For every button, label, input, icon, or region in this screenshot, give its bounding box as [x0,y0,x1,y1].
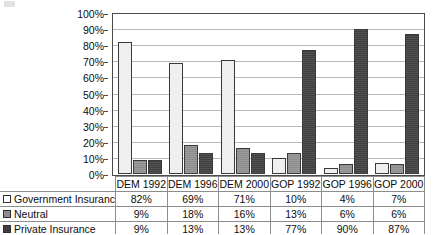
bar-group [114,15,166,174]
bar [287,153,301,174]
y-axis-tick-label: 100% [77,9,104,19]
bar-group [217,15,269,174]
bar [184,145,198,174]
bar [354,29,368,174]
y-axis-tick-mark [104,127,108,128]
y-axis-tick-mark [104,95,108,96]
bar [251,153,265,174]
y-axis-tick-label: 70% [83,57,104,67]
table-column-header: GOP 2000 [373,177,425,192]
legend-label: Neutral [14,208,48,220]
table-cell: 6% [322,207,374,222]
bar [302,50,316,174]
table-cell: 82% [116,192,168,207]
bar [118,42,132,174]
corner-artifact [4,1,15,7]
table-column-header: GOP 1992 [270,177,322,192]
bar [375,163,389,174]
legend-swatch-neutral [3,210,11,218]
y-axis-tick-label: 80% [83,41,104,51]
bar [169,63,183,174]
legend-label: Government Insurance [14,193,116,205]
y-axis-tick-mark [104,111,108,112]
table-cell: 87% [373,222,425,235]
y-axis-tick-mark [104,46,108,47]
table-cell: 16% [219,207,271,222]
plot-area [112,13,425,176]
table-cell: 9% [116,207,168,222]
table-cell: 69% [167,192,219,207]
legend-swatch-government-insurance [3,195,11,203]
table-column-header: DEM 1996 [167,177,219,192]
table-cell: 90% [322,222,374,235]
table-cell: 7% [373,192,425,207]
table-header-row: DEM 1992DEM 1996DEM 2000GOP 1992GOP 1996… [0,177,425,192]
y-axis-tick-label: 90% [83,25,104,35]
bar [221,60,235,174]
bar-group [320,15,372,174]
y-axis-tick-label: 60% [83,73,104,83]
table-cell: 4% [322,192,374,207]
y-axis-tick-mark [104,62,108,63]
table-cell: 13% [270,207,322,222]
table-cell: 6% [373,207,425,222]
legend-entry: Private Insurance [3,223,115,234]
table-cell: 13% [167,222,219,235]
table-row: Neutral9%18%16%13%6%6% [0,207,425,222]
y-axis-tick-mark [104,30,108,31]
bar-group [372,15,424,174]
bar [236,148,250,174]
table-cell: 9% [116,222,168,235]
bar [405,34,419,174]
bar-group [166,15,218,174]
table-header-corner [0,177,116,192]
table-cell: 77% [270,222,322,235]
bar [199,153,213,174]
bar-groups [114,15,423,174]
table-row-header: Government Insurance [0,192,116,207]
table-row: Government Insurance82%69%71%10%4%7% [0,192,425,207]
bar [272,158,286,174]
plot-area-wrapper [112,13,425,176]
legend-swatch-private-insurance [3,225,11,233]
table-cell: 13% [219,222,271,235]
table-row: Private Insurance9%13%13%77%90%87% [0,222,425,235]
table-column-header: DEM 2000 [219,177,271,192]
table-cell: 18% [167,207,219,222]
y-axis-tick-label: 10% [83,154,104,164]
bar [339,164,353,174]
bar [133,160,147,174]
bar-group [269,15,321,174]
table-row-header: Neutral [0,207,116,222]
y-axis-tick-mark [104,14,108,15]
legend-entry: Neutral [3,208,115,220]
legend-label: Private Insurance [14,223,96,234]
bar [324,168,338,174]
chart-container: 100%90%80%70%60%50%40%30%20%10%0% DEM 19… [0,0,444,234]
y-axis: 100%90%80%70%60%50%40%30%20%10%0% [58,13,108,176]
y-axis-tick-label: 40% [83,106,104,116]
data-table-wrapper: DEM 1992DEM 1996DEM 2000GOP 1992GOP 1996… [0,176,425,234]
y-axis-tick-mark [104,159,108,160]
table-column-header: GOP 1996 [322,177,374,192]
table-column-header: DEM 1992 [116,177,168,192]
y-axis-tick-mark [104,143,108,144]
y-axis-tick-label: 50% [83,90,104,100]
y-axis-tick-label: 20% [83,138,104,148]
y-axis-tick-label: 30% [83,122,104,132]
bar [390,164,404,174]
legend-entry: Government Insurance [3,193,115,205]
table-row-header: Private Insurance [0,222,116,235]
data-table: DEM 1992DEM 1996DEM 2000GOP 1992GOP 1996… [0,176,425,234]
table-cell: 71% [219,192,271,207]
bar [148,160,162,174]
y-axis-tick-mark [104,78,108,79]
table-cell: 10% [270,192,322,207]
